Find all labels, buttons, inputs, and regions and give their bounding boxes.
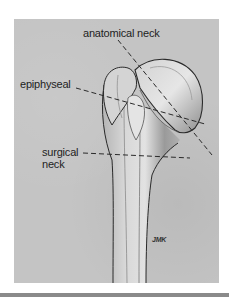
bottom-border: [0, 293, 229, 297]
label-epiphyseal: epiphyseal: [20, 79, 71, 90]
label-surgical-neck-1: surgical: [42, 147, 78, 158]
artist-signature: JMK: [152, 234, 166, 245]
label-anatomical-neck: anatomical neck: [83, 28, 160, 39]
humerus-illustration: [0, 0, 229, 297]
label-surgical-neck-2: neck: [42, 159, 64, 170]
